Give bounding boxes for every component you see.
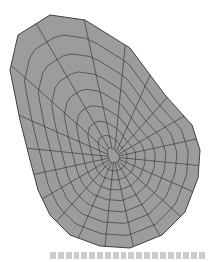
mesh-outline — [10, 15, 200, 248]
mesh-figure — [0, 0, 210, 262]
figure-caption — [50, 250, 205, 260]
